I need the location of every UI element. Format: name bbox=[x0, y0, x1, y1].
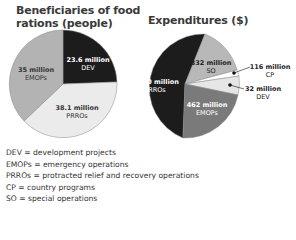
label-so-name: SO bbox=[206, 67, 215, 75]
label-dev-value: 32 million bbox=[245, 85, 281, 93]
pie-beneficiaries: 23.6 million DEV 38.1 million PRROs 35 m… bbox=[9, 30, 117, 138]
label-dev-name: DEV bbox=[81, 64, 95, 72]
abbreviation-legend: DEV = development projects EMOPs = emerg… bbox=[6, 147, 199, 205]
legend-item-so: SO = special operations bbox=[6, 193, 199, 205]
legend-item-dev: DEV = development projects bbox=[6, 147, 199, 159]
label-prros-name: PRROs bbox=[144, 86, 166, 94]
label-emops-value: 462 million bbox=[187, 101, 228, 109]
label-so-value: 332 million bbox=[191, 59, 232, 67]
label-cp-name: CP bbox=[266, 71, 275, 79]
pie-expenditures: 1,200 million PRROs 332 million SO 462 m… bbox=[131, 34, 290, 138]
legend-item-emops: EMOPs = emergency operations bbox=[6, 159, 199, 171]
label-cp-value: 116 million bbox=[250, 63, 291, 71]
label-emops-name: EMOPs bbox=[25, 74, 48, 82]
label-emops-name: EMOPs bbox=[196, 109, 219, 117]
label-prros-value: 1,200 million bbox=[131, 78, 179, 86]
label-dev-value: 23.6 million bbox=[66, 56, 109, 64]
legend-item-cp: CP = country programs bbox=[6, 182, 199, 194]
legend-item-prros: PRROs = protracted relief and recovery o… bbox=[6, 170, 199, 182]
label-dev-name: DEV bbox=[256, 93, 270, 101]
label-emops-value: 35 million bbox=[18, 66, 54, 74]
label-prros-name: PRROs bbox=[66, 112, 88, 120]
label-prros-value: 38.1 million bbox=[55, 104, 98, 112]
